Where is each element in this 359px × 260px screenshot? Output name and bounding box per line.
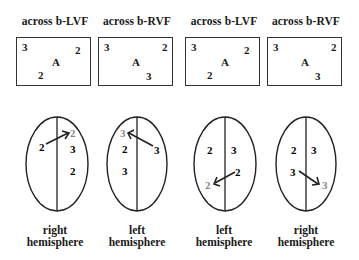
brain-label-arrow-to: 2 — [70, 127, 76, 139]
hemisphere-caption: right hemisphere — [261, 224, 351, 248]
hemisphere-caption: left hemisphere — [92, 224, 182, 248]
visual-field-box: 3 2 A 3 — [267, 37, 342, 86]
box-label-bottom: 3 — [146, 71, 152, 82]
panel-title: across b-RVF — [92, 15, 182, 27]
arrow-line — [129, 133, 153, 146]
brain-label-b: 3 — [311, 144, 317, 156]
panel-3: across b-LVF 3 2 A 2 2 3 2 2 left hemisp… — [179, 0, 269, 260]
box-label-center: A — [221, 57, 229, 68]
box-label-top-left: 3 — [104, 42, 110, 53]
visual-field-box: 3 2 A 3 — [98, 37, 173, 86]
box-label-top-right: 2 — [244, 45, 250, 56]
box-label-center: A — [52, 57, 60, 68]
brain-label-a: 2 — [291, 144, 297, 156]
brain-label-c: 2 — [70, 165, 76, 177]
caption-line-1: left — [179, 224, 269, 236]
caption-line-2: hemisphere — [10, 236, 100, 248]
arrow-line — [299, 171, 318, 184]
box-label-top-right: 2 — [162, 42, 168, 53]
brain-label-arrow-to: 3 — [120, 127, 126, 139]
box-label-bottom: 3 — [315, 71, 321, 82]
caption-line-1: left — [92, 224, 182, 236]
brain-label-arrow-to: 2 — [205, 179, 211, 191]
panel-title: across b-RVF — [261, 15, 351, 27]
caption-line-1: right — [10, 224, 100, 236]
box-label-top-left: 3 — [22, 42, 28, 53]
panel-2: across b-RVF 3 2 A 3 3 3 2 3 left hemisp… — [92, 0, 182, 260]
box-label-bottom: 2 — [207, 70, 213, 81]
brain-label-arrow-from: 2 — [235, 166, 241, 178]
box-label-bottom: 2 — [38, 70, 44, 81]
box-label-center: A — [132, 57, 140, 68]
hemisphere-caption: left hemisphere — [179, 224, 269, 248]
brain-label-arrow-from: 2 — [39, 141, 45, 153]
hemisphere-diagram: 2 3 3 3 — [261, 113, 351, 217]
panel-1: across b-LVF 3 2 A 2 2 2 3 2 right hemis… — [10, 0, 100, 260]
brain-label-c: 3 — [122, 165, 128, 177]
box-label-top-right: 2 — [331, 42, 337, 53]
box-label-top-left: 3 — [273, 42, 279, 53]
brain-label-a: 2 — [122, 143, 128, 155]
hemisphere-diagram: 2 3 2 2 — [179, 113, 269, 217]
brain-label-arrow-to: 3 — [322, 179, 328, 191]
brain-label-b: 3 — [70, 143, 76, 155]
brain-label-a: 2 — [207, 144, 213, 156]
caption-line-2: hemisphere — [261, 236, 351, 248]
visual-field-box: 3 2 A 2 — [185, 37, 260, 86]
visual-field-box: 3 2 A 2 — [16, 37, 91, 86]
caption-line-1: right — [261, 224, 351, 236]
hemisphere-caption: right hemisphere — [10, 224, 100, 248]
hemisphere-diagram: 3 3 2 3 — [92, 113, 182, 217]
brain-label-arrow-from: 3 — [290, 166, 296, 178]
caption-line-2: hemisphere — [179, 236, 269, 248]
box-label-center: A — [301, 57, 309, 68]
caption-line-2: hemisphere — [92, 236, 182, 248]
brain-label-arrow-from: 3 — [154, 144, 160, 156]
panel-title: across b-LVF — [179, 15, 269, 27]
box-label-top-left: 3 — [191, 42, 197, 53]
box-label-top-right: 2 — [75, 45, 81, 56]
panel-title: across b-LVF — [10, 15, 100, 27]
panel-4: across b-RVF 3 2 A 3 2 3 3 3 right hemis… — [261, 0, 351, 260]
brain-label-b: 3 — [231, 144, 237, 156]
hemisphere-diagram: 2 2 3 2 — [10, 113, 100, 217]
